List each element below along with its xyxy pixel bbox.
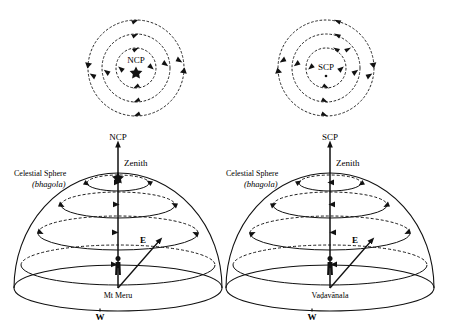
meru-zenith-label: Zenith: [124, 158, 148, 168]
meru-west-label: W: [96, 312, 105, 322]
meru-east-label: E: [140, 235, 146, 245]
meru-pole-label: NCP: [109, 132, 127, 142]
scp-plan-label: SCP: [318, 62, 334, 72]
vadavanala-bhagola-label: (bhagola): [244, 179, 278, 189]
astronomy-figure: NCP: [0, 0, 454, 328]
panel-ncp-plan: NCP: [85, 20, 187, 116]
meru-east-arrow: [118, 240, 160, 288]
panel-vadavanala-sphere: E W SCP Zenith Celestial Sphere (bhagola…: [226, 132, 434, 322]
vadavanala-pole-label: SCP: [322, 132, 338, 142]
vadavanala-celestial-sphere-label: Celestial Sphere: [226, 169, 279, 178]
panel-scp-plan: SCP: [275, 20, 376, 116]
vadavanala-observer-label: Vaḍavānala: [312, 291, 349, 300]
vadavanala-zenith-label: Zenith: [336, 158, 360, 168]
panel-mt-meru-sphere: E W NCP Zenith Celestial Sphere (bhagola…: [14, 132, 222, 322]
meru-bhagola-label: (bhagola): [32, 179, 66, 189]
vadavanala-east-label: E: [352, 235, 358, 245]
meru-celestial-sphere-label: Celestial Sphere: [14, 169, 67, 178]
scp-pole-dot-icon: [325, 75, 328, 78]
ncp-pole-star-icon: [130, 67, 143, 79]
vadavanala-west-label: W: [308, 312, 317, 322]
meru-observer-label: Mt Meru: [104, 291, 133, 300]
ncp-plan-label: NCP: [127, 55, 145, 65]
